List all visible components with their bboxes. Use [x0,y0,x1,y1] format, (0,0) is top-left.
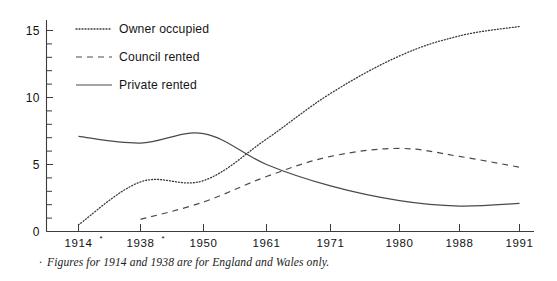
x-tick-label-1971: 1971 [317,237,345,249]
x-tick-marker-1914: * [99,234,102,243]
line-chart-housing-tenure: 15 10 5 0 1914 * 1938 * 1950 1961 1971 1… [0,0,557,281]
y-tick-label-0: 0 [33,225,40,239]
chart-footnote: · Figures for 1914 and 1938 are for Engl… [39,256,329,269]
x-tick-label-1988: 1988 [446,237,474,249]
y-axis-minor-ticks [47,31,54,232]
x-tick-label-1914: 1914 [65,237,93,249]
x-tick-marker-1938: * [161,234,164,243]
y-tick-label-5: 5 [33,158,40,172]
footnote-marker: · [39,256,42,269]
legend-label-private-rented: Private rented [119,78,197,92]
legend-label-council-rented: Council rented [119,50,200,64]
series-line-council-rented [141,148,520,219]
x-tick-label-1980: 1980 [386,237,414,249]
legend-label-owner-occupied: Owner occupied [119,22,209,36]
y-tick-label-10: 10 [26,91,40,105]
x-axis-labels: 1914 * 1938 * 1950 1961 1971 1980 1988 1… [65,234,534,249]
x-tick-label-1961: 1961 [253,237,281,249]
series-line-private-rented [79,133,520,206]
footnote-text: Figures for 1914 and 1938 are for Englan… [46,256,329,269]
x-tick-label-1938: 1938 [127,237,155,249]
chart-legend: Owner occupied Council rented Private re… [76,22,209,92]
y-tick-label-15: 15 [26,24,40,38]
x-axis-ticks [79,224,520,232]
x-tick-label-1950: 1950 [190,237,218,249]
chart-canvas: 15 10 5 0 1914 * 1938 * 1950 1961 1971 1… [0,0,557,281]
y-axis-labels: 15 10 5 0 [26,24,40,239]
x-tick-label-1991: 1991 [506,237,534,249]
